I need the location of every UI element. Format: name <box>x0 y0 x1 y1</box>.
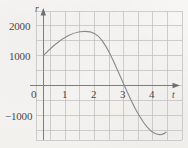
x-tick-label-2: 2 <box>91 89 96 100</box>
y-axis-arrowhead <box>41 8 46 16</box>
y-tick-label-0: 0 <box>31 89 36 100</box>
curve-r-of-t <box>43 31 166 134</box>
grid-vertical <box>36 11 182 140</box>
y-axis-label: r <box>35 5 39 15</box>
x-axis <box>30 83 180 89</box>
y-tick-label-neg1000: −1000 <box>5 111 32 122</box>
y-axis <box>41 8 46 140</box>
y-tick-label-1000: 1000 <box>9 51 30 62</box>
figure-container: 2000 1000 0 −1000 1 2 3 4 r t <box>0 0 188 148</box>
y-tick-label-2000: 2000 <box>9 21 30 32</box>
x-axis-label: t <box>172 91 175 101</box>
x-tick-label-3: 3 <box>120 89 125 100</box>
x-axis-arrowhead <box>173 83 181 89</box>
x-tick-label-4: 4 <box>149 89 154 100</box>
x-tick-label-1: 1 <box>62 89 67 100</box>
